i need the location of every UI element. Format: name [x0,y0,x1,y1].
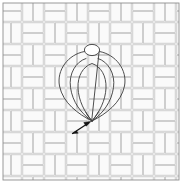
figure-canvas [0,0,185,192]
figure-root [0,0,185,192]
top-ring-grommet [84,44,99,55]
basketweave-pattern-panel [0,0,185,192]
